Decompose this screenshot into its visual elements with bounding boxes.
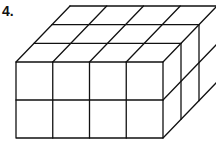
problem-figure: 4.	[0, 0, 216, 142]
top-face	[16, 6, 216, 62]
cube-prism-diagram	[0, 0, 216, 142]
right-face	[163, 25, 216, 138]
